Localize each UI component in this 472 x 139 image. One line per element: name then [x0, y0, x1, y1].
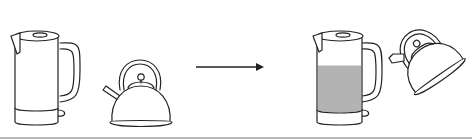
stovetop-body: [112, 86, 170, 123]
arrow-right: [196, 63, 264, 71]
water-fill: [318, 65, 361, 112]
stovetop-spout: [389, 54, 404, 63]
diagram-canvas: [0, 0, 472, 139]
kettle-spout: [11, 33, 20, 54]
bottom-divider: [0, 137, 472, 139]
stovetop-lid-knob: [138, 74, 144, 80]
arrow-head-icon: [256, 63, 264, 71]
electric-kettle-empty: [11, 31, 80, 125]
kettle-spout: [313, 33, 322, 52]
electric-kettle-filled: [313, 31, 382, 125]
kettle-body: [15, 38, 58, 125]
stovetop-kettle: [103, 60, 172, 127]
